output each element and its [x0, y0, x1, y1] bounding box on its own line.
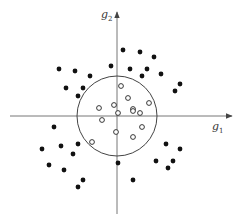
filled-point	[116, 161, 121, 166]
filled-point	[81, 86, 86, 91]
open-point	[100, 118, 105, 123]
open-point	[114, 130, 119, 135]
open-point	[131, 135, 136, 140]
filled-point	[76, 142, 81, 147]
filled-point	[128, 67, 133, 72]
filled-point	[173, 89, 178, 94]
filled-point	[40, 147, 45, 152]
filled-point	[159, 72, 164, 77]
filled-point	[64, 86, 69, 91]
filled-point	[81, 178, 86, 183]
filled-point	[88, 74, 93, 79]
filled-point	[178, 82, 183, 87]
filled-point	[171, 159, 176, 164]
open-point	[116, 111, 121, 116]
open-point	[97, 106, 102, 111]
filled-point	[152, 55, 157, 60]
filled-point	[178, 147, 183, 152]
open-point	[131, 109, 136, 114]
open-point	[126, 96, 131, 101]
open-point	[112, 103, 117, 108]
filled-point	[71, 152, 76, 157]
filled-point	[76, 94, 81, 99]
open-point	[90, 140, 95, 145]
open-points-group	[90, 84, 152, 145]
open-point	[138, 111, 143, 116]
filled-point	[164, 142, 169, 147]
filled-point	[140, 74, 145, 79]
filled-point	[131, 178, 136, 183]
y-axis-label: g2	[101, 8, 113, 23]
open-point	[147, 101, 152, 106]
open-point	[119, 84, 124, 89]
filled-point	[145, 67, 150, 72]
filled-point	[109, 64, 114, 69]
scatter-diagram: g2 g1	[0, 0, 247, 221]
filled-point	[59, 144, 64, 149]
filled-point	[73, 69, 78, 74]
filled-point	[166, 166, 171, 171]
filled-points-group	[40, 48, 183, 190]
filled-point	[62, 168, 67, 173]
x-axis-label: g1	[212, 120, 224, 135]
filled-point	[121, 48, 126, 53]
open-point	[140, 125, 145, 130]
filled-point	[76, 185, 81, 190]
filled-point	[52, 125, 57, 130]
filled-point	[57, 67, 62, 72]
filled-point	[138, 50, 143, 55]
filled-point	[154, 159, 159, 164]
filled-point	[47, 163, 52, 168]
